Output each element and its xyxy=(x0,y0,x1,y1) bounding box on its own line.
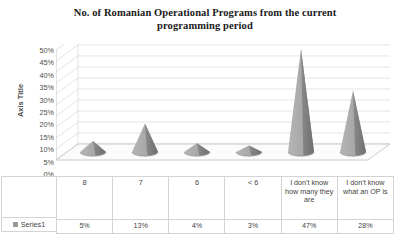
table-row-values: 5%13%4%3%47%28% xyxy=(57,220,394,234)
y-tick-label: 15% xyxy=(26,134,54,142)
table-cell-category: 8 xyxy=(57,177,113,220)
y-tick-label: 20% xyxy=(26,121,54,129)
gridline xyxy=(56,67,390,83)
chart-data-table: 876< 6I don't know how many they areI do… xyxy=(56,176,394,234)
y-tick-label: 25% xyxy=(26,109,54,117)
table-legend-spacer xyxy=(1,176,56,217)
chart-canvas xyxy=(56,44,394,176)
y-tick-label: 30% xyxy=(26,97,54,105)
gridline xyxy=(56,100,390,116)
plot-area xyxy=(56,44,394,176)
legend-series1: Series1 xyxy=(1,217,56,232)
data-series-cones xyxy=(80,49,366,157)
y-axis-tick-labels: 50%45%40%35%30%25%20%15%10%5%0% xyxy=(26,45,54,175)
gridline xyxy=(56,111,390,127)
gridline xyxy=(56,45,390,61)
chart-container: No. of Romanian Operational Programs fro… xyxy=(0,0,406,249)
y-tick-label: 35% xyxy=(26,84,54,92)
gridline xyxy=(56,122,390,138)
table-cell-category: < 6 xyxy=(225,177,281,220)
table-cell-value: 28% xyxy=(337,220,393,234)
table-cell-value: 3% xyxy=(225,220,281,234)
y-tick-label: 5% xyxy=(26,159,54,167)
y-tick-label: 45% xyxy=(26,59,54,67)
y-tick-label: 50% xyxy=(26,47,54,55)
y-tick-label: 10% xyxy=(26,146,54,154)
y-tick-label: 40% xyxy=(26,72,54,80)
gridlines xyxy=(56,44,390,160)
chart-title-line-1: No. of Romanian Operational Programs fro… xyxy=(74,7,337,18)
table-row-categories: 876< 6I don't know how many they areI do… xyxy=(57,177,394,220)
table-cell-category: 6 xyxy=(169,177,225,220)
gridline xyxy=(56,89,390,105)
legend-label: Series1 xyxy=(21,220,45,229)
table-cell-value: 4% xyxy=(169,220,225,234)
cone-bar xyxy=(288,49,314,157)
table-cell-category: I don't know how many they are xyxy=(281,177,337,220)
legend-swatch-icon xyxy=(13,222,18,227)
cone-bar xyxy=(132,123,158,156)
table-cell-value: 47% xyxy=(281,220,337,234)
table-cell-category: 7 xyxy=(113,177,169,220)
y-axis-title: Axis Title xyxy=(16,71,25,131)
table-cell-value: 13% xyxy=(113,220,169,234)
gridline xyxy=(56,78,390,94)
chart-title-line-2: programming period xyxy=(40,19,370,32)
table-cell-value: 5% xyxy=(57,220,113,234)
chart-title: No. of Romanian Operational Programs fro… xyxy=(40,6,370,32)
gridline xyxy=(56,56,390,72)
table-cell-category: I don't know what an OP is xyxy=(337,177,393,220)
